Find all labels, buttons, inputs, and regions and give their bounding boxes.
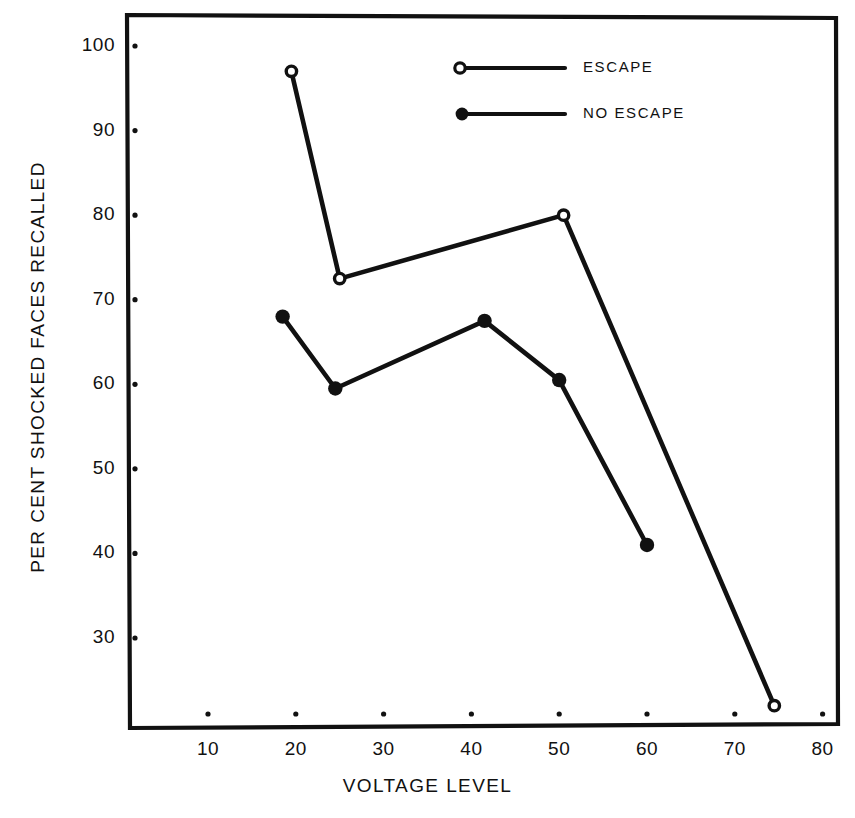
chart-plot-area (0, 0, 855, 818)
plot-frame (127, 15, 838, 728)
legend-marker-open-circle (455, 63, 465, 73)
y-tick-mark (132, 43, 137, 48)
y-tick-mark (132, 382, 137, 387)
data-point-open-circle (558, 210, 568, 220)
y-tick-label: 50 (29, 457, 115, 479)
x-tick-mark (732, 711, 737, 716)
y-tick-mark (132, 551, 137, 556)
data-point-filled-circle (328, 381, 342, 395)
y-tick-label: 90 (29, 119, 115, 141)
data-point-filled-circle (640, 538, 654, 552)
legend-label-no-escape: NO ESCAPE (583, 104, 685, 121)
x-tick-mark (293, 711, 298, 716)
data-point-filled-circle (477, 314, 491, 328)
x-tick-label: 40 (431, 738, 511, 760)
data-point-filled-circle (275, 309, 289, 323)
y-tick-mark (132, 297, 137, 302)
y-tick-label: 100 (29, 34, 115, 56)
legend-label-escape: ESCAPE (583, 58, 653, 75)
y-tick-label: 60 (29, 372, 115, 394)
x-tick-label: 70 (695, 738, 775, 760)
data-point-open-circle (769, 700, 779, 710)
series-line-escape (291, 71, 774, 705)
x-tick-mark (469, 711, 474, 716)
x-tick-label: 10 (168, 738, 248, 760)
y-tick-mark (132, 128, 137, 133)
x-tick-label: 60 (607, 738, 687, 760)
legend-marker-filled-circle (456, 108, 469, 121)
y-tick-mark (132, 213, 137, 218)
y-tick-label: 30 (29, 626, 115, 648)
x-tick-label: 30 (344, 738, 424, 760)
y-tick-label: 80 (29, 203, 115, 225)
series-line-no-escape (283, 317, 647, 545)
x-tick-mark (820, 711, 825, 716)
data-point-filled-circle (552, 373, 566, 387)
x-tick-mark (205, 711, 210, 716)
y-tick-label: 70 (29, 288, 115, 310)
x-tick-label: 80 (783, 738, 855, 760)
x-tick-mark (557, 711, 562, 716)
x-axis-title: VOLTAGE LEVEL (0, 775, 855, 797)
data-point-open-circle (335, 273, 345, 283)
data-point-open-circle (286, 66, 296, 76)
x-tick-mark (644, 711, 649, 716)
x-tick-mark (381, 711, 386, 716)
y-tick-label: 40 (29, 541, 115, 563)
y-tick-mark (132, 466, 137, 471)
x-tick-label: 20 (256, 738, 336, 760)
chart-figure: PER CENT SHOCKED FACES RECALLED VOLTAGE … (0, 0, 855, 818)
x-tick-label: 50 (519, 738, 599, 760)
y-tick-mark (132, 635, 137, 640)
